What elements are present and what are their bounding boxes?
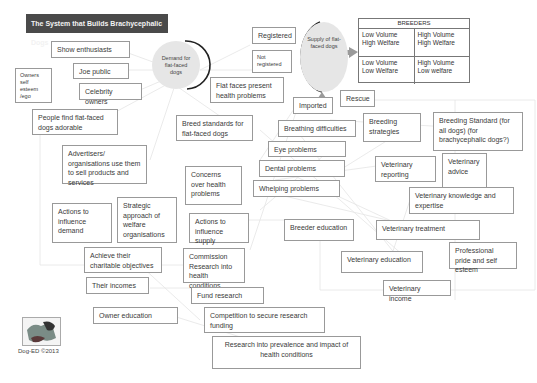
dog-ed-logo [22, 317, 61, 346]
breeders-table: BREEDERS Low Volume High Welfare High Vo… [358, 18, 470, 83]
actions-influence-demand-box: Actions to influence demand [52, 203, 112, 243]
supply-label: Supply of flat-faced dogs [306, 36, 342, 50]
demand-label: Demand for flat-faced dogs [158, 55, 194, 76]
breed-standards-box: Breed standards for flat-faced dogs [176, 115, 253, 141]
dog-silhouette-icon [23, 318, 60, 345]
breeders-cell: Low Volume High Welfare [359, 29, 414, 56]
concerns-health-box: Concerns over health problems [185, 166, 242, 205]
logo-caption: Dog-ED ©2013 [18, 348, 59, 354]
dental-problems-box: Dental problems [259, 160, 345, 177]
breeders-cell: Low Volume Low Welfare [359, 57, 414, 84]
vet-advice-box: Veterinary advice [442, 153, 487, 189]
owner-education-box: Owner education [93, 307, 178, 324]
breeder-education-box: Breeder education [284, 219, 354, 241]
advertisers-box: Advertisers/ organisations use them to s… [62, 145, 147, 184]
vet-income-box: Veterinary income [383, 280, 451, 296]
whelping-problems-box: Whelping problems [253, 180, 340, 197]
breeders-cell: High Volume Low welfare [414, 57, 470, 84]
vet-treatment-box: Veterinary treatment [376, 220, 480, 240]
commission-research-box: Commission Research into health conditio… [183, 248, 245, 283]
not-registered-box: Not registered [252, 50, 292, 73]
breeding-strategies-box: Breeding strategies [363, 113, 421, 142]
show-enthusiasts-box: Show enthusiasts [51, 41, 130, 58]
breeders-cell: High Volume High Welfare [414, 29, 470, 56]
breeders-row: Low Volume High Welfare High Volume High… [359, 29, 469, 56]
strategic-approach-box: Strategic approach of welfare organisati… [117, 197, 177, 243]
joe-public-box: Joe public [73, 63, 129, 79]
owners-self-esteem-box: Owners self esteem /ego [15, 68, 52, 103]
achieve-objectives-box: Achieve their charitable objectives [84, 247, 162, 273]
imported-box: Imported [293, 97, 333, 114]
competition-funding-box: Competition to secure research funding [204, 307, 325, 333]
vet-education-box: Veterinary education [341, 251, 423, 273]
breeding-standard-all-box: Breeding Standard (for all dogs) (for br… [433, 112, 523, 151]
demand-node: Demand for flat-faced dogs [152, 41, 200, 89]
breathing-difficulties-box: Breathing difficulties [278, 120, 356, 137]
breeders-row: Low Volume Low Welfare High Volume Low w… [359, 56, 469, 84]
vet-reporting-box: Veterinary reporting [375, 156, 436, 182]
actions-influence-supply-box: Actions to influence supply [189, 213, 249, 243]
flat-faces-health-box: Flat faces present health problems [210, 77, 284, 103]
fund-research-box: Fund research [191, 287, 264, 304]
research-prevalence-box: Research into prevalence and impact of h… [212, 336, 361, 369]
professional-pride-box: Professional pride and self esteem [449, 242, 517, 269]
vet-knowledge-box: Veterinary knowledge and expertise [409, 187, 514, 214]
rescue-box: Rescue [340, 90, 375, 107]
breeders-header: BREEDERS [359, 19, 469, 29]
their-incomes-box: Their incomes [86, 277, 149, 294]
eye-problems-box: Eye problems [268, 141, 346, 157]
diagram-title: The System that Builds Brachycephalic Do… [26, 14, 168, 33]
people-find-adorable-box: People find flat-faced dogs adorable [32, 109, 118, 135]
celebrity-owners-box: Celebrity owners [79, 83, 142, 100]
registered-box: Registered [252, 27, 296, 44]
supply-node: Supply of flat-faced dogs [300, 22, 348, 92]
